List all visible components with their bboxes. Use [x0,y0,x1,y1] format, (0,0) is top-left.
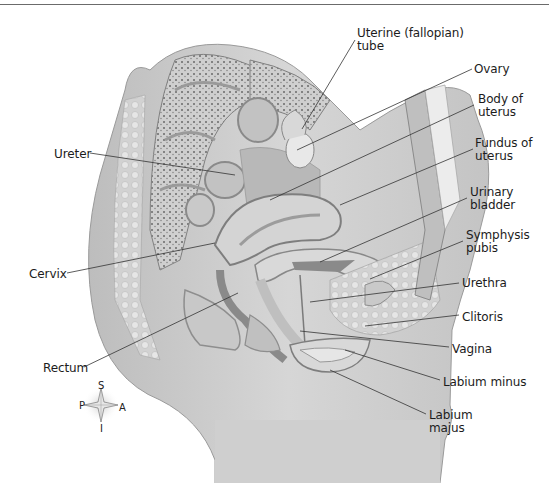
compass-superior: S [98,380,104,391]
label-labium-majus: Labium majus [429,409,473,435]
label-labium-minus: Labium minus [443,376,526,389]
compass-anterior: A [119,402,126,413]
label-ovary: Ovary [474,63,509,76]
label-fundus-of-uterus: Fundus of uterus [475,137,532,163]
compass-rose [83,387,119,423]
compass-posterior: P [79,400,85,411]
label-uterine-tube: Uterine (fallopian) tube [357,27,464,53]
label-body-of-uterus: Body of uterus [478,93,523,119]
label-cervix: Cervix [29,268,67,281]
label-vagina: Vagina [452,343,492,356]
label-urethra: Urethra [462,277,507,290]
label-ureter: Ureter [54,148,91,161]
compass-inferior: I [100,423,103,434]
label-rectum: Rectum [43,362,88,375]
label-urinary-bladder: Urinary bladder [470,186,515,212]
label-symphysis-pubis: Symphysis pubis [466,229,530,255]
label-clitoris: Clitoris [462,311,503,324]
